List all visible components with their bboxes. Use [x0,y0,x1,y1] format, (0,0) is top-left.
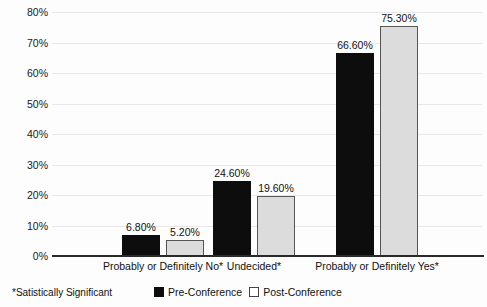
bar-post-conference[interactable] [166,240,204,256]
bar-value-label: 5.20% [160,227,210,238]
bar-value-label: 24.60% [207,168,257,179]
bar-value-label: 19.60% [251,183,301,194]
y-axis-tick-label: 20% [4,190,48,201]
legend-label-post-conference: Post-Conference [263,286,342,298]
y-axis: 0%10%20%30%40%50%60%70%80% [0,12,48,256]
legend-swatch-post-conference-icon [249,287,259,297]
y-axis-tick-label: 60% [4,68,48,79]
legend: Pre-Conference Post-Conference [154,286,342,298]
bar-chart: 0%10%20%30%40%50%60%70%80% 6.80%5.20%24.… [0,0,487,307]
bar-post-conference[interactable] [380,26,418,256]
footnote: *Satistically Significant [12,287,112,299]
legend-item-post-conference[interactable]: Post-Conference [249,286,342,298]
bar-pre-conference[interactable] [213,181,251,256]
bar-pre-conference[interactable] [122,235,160,256]
y-axis-tick-label: 10% [4,220,48,231]
plot-area: 6.80%5.20%24.60%19.60%66.60%75.30% [52,12,482,256]
legend-swatch-pre-conference-icon [154,287,164,297]
bar-value-label: 66.60% [330,40,380,51]
legend-label-pre-conference: Pre-Conference [168,286,242,298]
bar-value-label: 75.30% [374,13,424,24]
bar-pre-conference[interactable] [336,53,374,256]
y-axis-tick-label: 30% [4,159,48,170]
y-axis-tick-label: 40% [4,129,48,140]
bar-value-label: 6.80% [116,222,166,233]
legend-item-pre-conference[interactable]: Pre-Conference [154,286,242,298]
x-axis-category-label: Probably or Definitely Yes* [287,260,467,272]
y-axis-tick-label: 0% [4,251,48,262]
bar-post-conference[interactable] [257,196,295,256]
x-axis-line [52,255,484,257]
y-axis-tick-label: 70% [4,37,48,48]
y-axis-tick-label: 50% [4,98,48,109]
y-axis-tick-label: 80% [4,7,48,18]
